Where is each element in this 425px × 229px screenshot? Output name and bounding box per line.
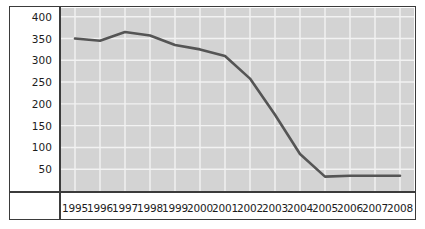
y-axis-line — [59, 7, 61, 219]
x-axis-tick-label: 2001 — [212, 202, 238, 214]
line-chart-svg — [61, 8, 414, 191]
x-axis-tick-label: 2000 — [187, 202, 213, 214]
horizontal-gridlines — [61, 17, 414, 170]
x-axis-tick-labels: 1995199619971998199920002001200220032004… — [61, 193, 414, 219]
x-axis-tick-label: 2006 — [337, 202, 363, 214]
vertical-gridlines — [75, 8, 400, 191]
x-axis-tick-label: 2005 — [312, 202, 338, 214]
x-axis-tick-label: 2008 — [387, 202, 413, 214]
plot-area — [61, 8, 414, 191]
y-axis-tick-label: 400 — [32, 11, 52, 23]
chart-figure: 40035030025020015010050 1995199619971998… — [0, 0, 425, 229]
y-axis-tick-label: 250 — [32, 76, 52, 88]
chart-frame: 40035030025020015010050 1995199619971998… — [9, 6, 416, 220]
x-axis-tick-label: 2004 — [287, 202, 313, 214]
y-axis-tick-label: 200 — [32, 98, 52, 110]
x-axis-tick-label: 1998 — [137, 202, 163, 214]
x-axis-tick-label: 1996 — [87, 202, 113, 214]
x-axis-tick-label: 2002 — [237, 202, 263, 214]
y-axis-tick-label: 50 — [38, 163, 52, 175]
y-axis-tick-label: 150 — [32, 120, 52, 132]
x-axis-tick-label: 1995 — [62, 202, 88, 214]
y-axis-tick-label: 300 — [32, 54, 52, 66]
y-axis-tick-label: 350 — [32, 33, 52, 45]
y-axis-tick-labels: 40035030025020015010050 — [10, 7, 58, 191]
x-axis-tick-label: 1997 — [112, 202, 138, 214]
x-axis-tick-label: 2007 — [362, 202, 388, 214]
x-axis-tick-label: 1999 — [162, 202, 188, 214]
y-axis-tick-label: 100 — [32, 141, 52, 153]
x-axis-tick-label: 2003 — [262, 202, 288, 214]
